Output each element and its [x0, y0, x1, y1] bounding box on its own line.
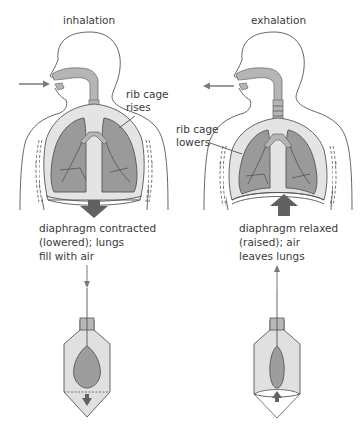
inhalation-caption-line1: diaphragm contracted: [39, 222, 156, 234]
exhalation-rib-label-line1: rib cage: [176, 123, 219, 135]
breathing-diagram: inhalation: [0, 0, 362, 428]
inhalation-tube-air-in-arrow: [84, 281, 90, 288]
inhalation-caption-line2: (lowered); lungs: [39, 236, 124, 248]
exhalation-mouth: [239, 83, 248, 90]
exhalation-bell-jar-model: [254, 265, 300, 418]
inhalation-rib-label-line1: rib cage: [126, 88, 169, 100]
inhalation-caption-line3: fill with air: [39, 250, 95, 262]
inhalation-panel: inhalation: [19, 14, 169, 417]
exhalation-rib-label-line2: lowers: [176, 136, 210, 148]
inhalation-air-in-arrow: [19, 81, 50, 88]
exhalation-caption-line2: (raised); air: [239, 236, 301, 248]
inhalation-bell-jar-model: [64, 265, 110, 417]
exhalation-tube-air-out-arrow: [274, 265, 280, 272]
exhalation-caption-line1: diaphragm relaxed: [239, 222, 338, 234]
exhalation-air-out-arrow: [203, 83, 234, 90]
inhalation-diaphragm-down-arrow: [80, 200, 108, 218]
exhalation-panel: exhalation: [176, 14, 352, 418]
inhalation-rib-label-line2: rises: [126, 101, 151, 113]
inhalation-title: inhalation: [63, 14, 115, 26]
exhalation-caption-line3: leaves lungs: [239, 250, 305, 262]
exhalation-title: exhalation: [251, 14, 306, 26]
inhalation-mouth: [55, 83, 64, 90]
